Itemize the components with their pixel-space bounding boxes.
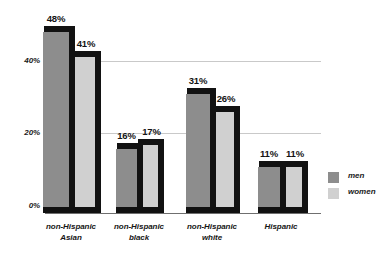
bar-side-women-1 bbox=[158, 139, 164, 207]
legend-swatch-women bbox=[328, 188, 339, 199]
bar-men-non-hispanic-white[interactable] bbox=[186, 94, 210, 207]
bar-chart: 40% 20% 0% 48%41%non-HispanicAsian16%17%… bbox=[0, 0, 388, 255]
value-label-women-2: 26% bbox=[209, 93, 243, 104]
value-label-men-0: 48% bbox=[38, 13, 74, 24]
value-label-men-2: 31% bbox=[181, 75, 215, 86]
bar-side-women-3 bbox=[302, 161, 308, 207]
legend-label-women: women bbox=[348, 187, 376, 196]
bar-men-hispanic[interactable] bbox=[258, 167, 280, 207]
bar-side-men-2 bbox=[210, 88, 216, 207]
value-label-women-3: 11% bbox=[279, 148, 311, 159]
category-label-line: Hispanic bbox=[233, 221, 329, 232]
bar-side-women-0 bbox=[95, 51, 101, 207]
x-axis-line bbox=[45, 213, 321, 214]
value-label-women-0: 41% bbox=[68, 38, 104, 49]
bar-side-men-3 bbox=[280, 161, 286, 207]
bar-men-non-hispanic-asian[interactable] bbox=[43, 32, 69, 207]
plot-area: 48%41%non-HispanicAsian16%17%non-Hispani… bbox=[0, 0, 388, 255]
bar-side-women-2 bbox=[234, 106, 240, 207]
value-label-women-1: 17% bbox=[136, 126, 167, 137]
legend-label-men: men bbox=[348, 171, 364, 180]
bar-side-men-0 bbox=[69, 26, 75, 207]
category-label-3: Hispanic bbox=[233, 221, 329, 232]
legend-swatch-men bbox=[328, 172, 339, 183]
category-label-line: white bbox=[164, 232, 260, 243]
bar-side-men-1 bbox=[137, 143, 143, 207]
bar-men-non-hispanic-black[interactable] bbox=[116, 149, 137, 207]
